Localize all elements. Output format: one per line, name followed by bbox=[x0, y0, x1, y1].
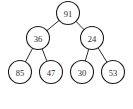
tree-node-leaf-2: 47 bbox=[40, 61, 63, 84]
node-label-leaf-3: 30 bbox=[78, 68, 87, 78]
tree-node-root: 91 bbox=[57, 2, 80, 25]
tree-node-leaf-3: 30 bbox=[71, 61, 94, 84]
node-label-root: 91 bbox=[64, 9, 73, 19]
binary-tree-diagram: 91 36 24 85 47 30 53 bbox=[0, 0, 133, 109]
node-label-left-1: 36 bbox=[34, 34, 43, 44]
tree-node-leaf-1: 85 bbox=[9, 61, 32, 84]
node-label-leaf-2: 47 bbox=[47, 68, 56, 78]
node-label-right-1: 24 bbox=[88, 34, 97, 44]
node-group: 91 36 24 85 47 30 53 bbox=[9, 2, 125, 84]
node-label-leaf-4: 53 bbox=[109, 68, 118, 78]
node-label-leaf-1: 85 bbox=[16, 68, 25, 78]
tree-node-left-1: 36 bbox=[27, 27, 50, 50]
tree-node-right-1: 24 bbox=[81, 27, 104, 50]
tree-node-leaf-4: 53 bbox=[102, 61, 125, 84]
